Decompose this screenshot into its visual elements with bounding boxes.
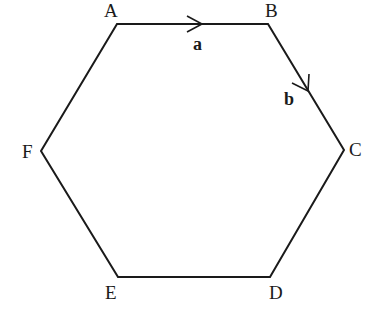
vertex-label-e: E [105, 282, 117, 303]
vertex-label-f: F [22, 141, 33, 162]
vertex-label-c: C [349, 139, 362, 160]
vertex-label-b: B [265, 0, 278, 21]
vertex-label-a: A [104, 0, 118, 21]
vector-label-a: a [193, 34, 202, 54]
vector-label-b: b [284, 89, 294, 109]
vertex-label-d: D [269, 282, 283, 303]
hexagon-outline [41, 24, 344, 277]
hexagon-diagram: A B C D E F a b [0, 0, 383, 326]
